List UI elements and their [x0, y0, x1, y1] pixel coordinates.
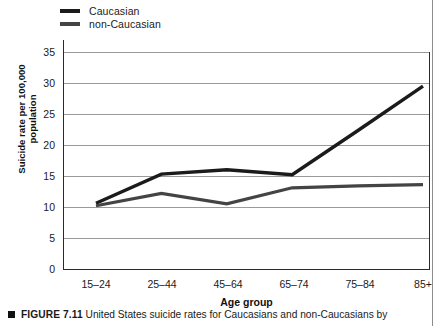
- caption-body-text: United States suicide rates for Caucasia…: [86, 309, 388, 320]
- figure-page: Caucasian non-Caucasian Suicide rate per…: [0, 0, 445, 326]
- series-line-non-caucasian: [96, 185, 423, 206]
- chart-series-layer: [63, 40, 430, 280]
- legend-item-non-caucasian: non-Caucasian: [60, 17, 320, 30]
- legend-swatch-caucasian-icon: [60, 9, 80, 13]
- y-tick-5: 5: [29, 232, 55, 244]
- chart-grid-area: [63, 40, 430, 280]
- figure-caption: FIGURE 7.11 United States suicide rates …: [8, 308, 428, 321]
- legend-swatch-non-caucasian-icon: [60, 22, 80, 26]
- y-tick-30: 30: [29, 77, 55, 89]
- chart-plot-area: Suicide rate per 100,000 population 35 3…: [0, 40, 445, 280]
- x-tick-75-84: 75–84: [345, 278, 374, 290]
- x-tick-65-74: 65–74: [279, 278, 308, 290]
- legend-label-non-caucasian: non-Caucasian: [89, 18, 161, 30]
- y-tick-10: 10: [29, 201, 55, 213]
- caption-square-icon: [8, 311, 15, 318]
- x-axis-title: Age group: [63, 296, 430, 308]
- x-tick-85-plus: 85+: [414, 278, 432, 290]
- y-tick-35: 35: [29, 46, 55, 58]
- y-tick-15: 15: [29, 170, 55, 182]
- y-tick-20: 20: [29, 139, 55, 151]
- y-tick-0: 0: [29, 263, 55, 275]
- legend-item-caucasian: Caucasian: [60, 4, 320, 17]
- legend-label-caucasian: Caucasian: [89, 5, 140, 17]
- x-tick-15-24: 15–24: [81, 278, 110, 290]
- x-tick-45-64: 45–64: [213, 278, 242, 290]
- chart-legend: Caucasian non-Caucasian: [60, 4, 320, 30]
- y-axis-title-line1: Suicide rate per 100,000: [16, 64, 27, 173]
- y-axis-tick-labels: 35 30 25 20 15 10 5 0: [29, 40, 55, 280]
- x-axis-tick-labels: 15–24 25–44 45–64 65–74 75–84 85+: [63, 278, 430, 294]
- caption-figure-number: FIGURE 7.11: [21, 309, 83, 320]
- y-tick-25: 25: [29, 108, 55, 120]
- x-tick-25-44: 25–44: [147, 278, 176, 290]
